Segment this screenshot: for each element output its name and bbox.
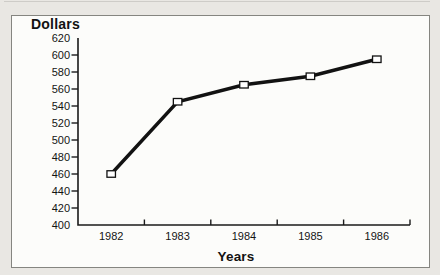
line-chart: 4004204404604805005205405605806006201982…: [0, 0, 440, 275]
y-tick-label: 560: [52, 83, 70, 95]
x-tick-label: 1985: [298, 230, 322, 242]
data-point-marker: [306, 73, 315, 80]
y-tick-label: 600: [52, 49, 70, 61]
y-tick-label: 460: [52, 168, 70, 180]
x-axis-title: Years: [166, 249, 306, 264]
axes: [78, 38, 410, 225]
x-tick-label: 1982: [99, 230, 123, 242]
y-tick-label: 620: [52, 32, 70, 44]
x-tick-label: 1984: [232, 230, 256, 242]
data-point-marker: [173, 99, 182, 106]
data-line: [111, 59, 377, 174]
y-tick-label: 440: [52, 185, 70, 197]
data-point-marker: [107, 171, 116, 178]
data-point-marker: [373, 56, 382, 63]
x-tick-label: 1983: [165, 230, 189, 242]
y-tick-label: 540: [52, 100, 70, 112]
y-tick-label: 520: [52, 117, 70, 129]
y-tick-label: 400: [52, 219, 70, 231]
y-tick-label: 580: [52, 66, 70, 78]
y-tick-label: 500: [52, 134, 70, 146]
x-tick-label: 1986: [365, 230, 389, 242]
page: { "page": { "background": "#e9e7e3", "pa…: [0, 0, 440, 275]
y-tick-label: 480: [52, 151, 70, 163]
y-tick-label: 420: [52, 202, 70, 214]
data-point-marker: [240, 82, 249, 89]
